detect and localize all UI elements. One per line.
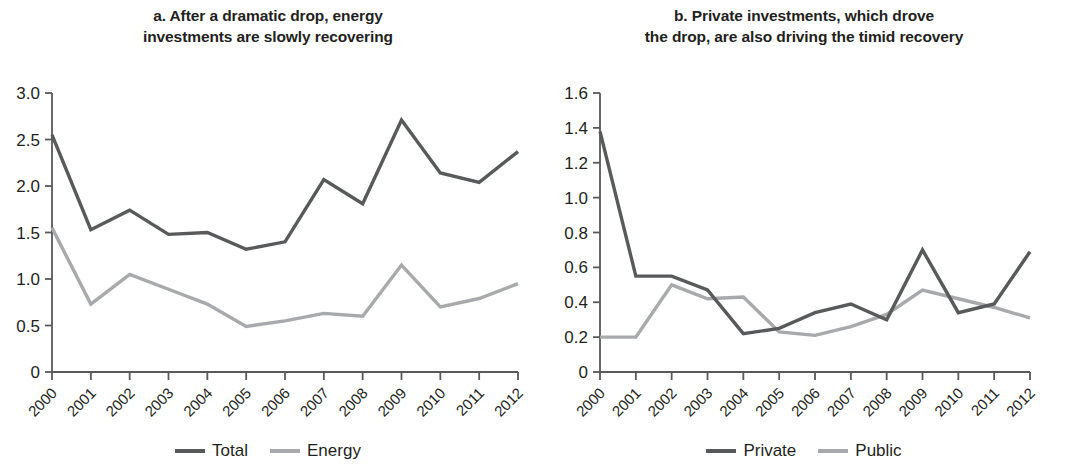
panel-a-plot: 00.51.01.52.02.53.0 20002001200220032004… bbox=[0, 0, 536, 465]
panel-b-axes bbox=[600, 93, 1030, 372]
legend-swatch-private bbox=[706, 449, 736, 453]
legend-label-public: Public bbox=[855, 442, 901, 459]
legend-swatch-public bbox=[818, 449, 848, 453]
legend-label-total: Total bbox=[212, 442, 248, 459]
x-tick-label: 2005 bbox=[219, 384, 255, 420]
x-tick-label: 2003 bbox=[141, 384, 177, 420]
series-line-total bbox=[52, 120, 518, 249]
x-tick-label: 2005 bbox=[752, 384, 788, 420]
x-tick-label: 2000 bbox=[25, 384, 61, 420]
legend-item-energy: Energy bbox=[270, 442, 361, 459]
x-tick-label: 2011 bbox=[452, 384, 487, 419]
y-tick-label: 1.2 bbox=[564, 154, 588, 173]
x-tick-label: 2007 bbox=[823, 384, 859, 420]
y-tick-label: 1.4 bbox=[564, 119, 588, 138]
x-tick-label: 2006 bbox=[258, 384, 294, 420]
y-tick-label: 0.8 bbox=[564, 224, 588, 243]
y-tick-label: 0.5 bbox=[16, 317, 40, 336]
x-tick-label: 2012 bbox=[1003, 384, 1039, 420]
legend-label-energy: Energy bbox=[307, 442, 361, 459]
chart-panel-a: a. After a dramatic drop, energy investm… bbox=[0, 0, 536, 465]
x-tick-label: 2003 bbox=[680, 384, 716, 420]
panel-b-y-ticks: 00.20.40.60.81.01.21.41.6 bbox=[564, 84, 600, 382]
x-tick-label: 2008 bbox=[859, 384, 895, 420]
panel-b-plot: 00.20.40.60.81.01.21.41.6 20002001200220… bbox=[536, 0, 1072, 465]
x-tick-label: 2008 bbox=[335, 384, 371, 420]
y-tick-label: 3.0 bbox=[16, 84, 40, 103]
x-tick-label: 2004 bbox=[180, 384, 216, 420]
x-tick-label: 2001 bbox=[608, 384, 644, 420]
panel-a-axes bbox=[52, 93, 518, 372]
y-tick-label: 1.6 bbox=[564, 84, 588, 103]
y-tick-label: 1.5 bbox=[16, 224, 40, 243]
x-tick-label: 2001 bbox=[63, 384, 99, 420]
y-tick-label: 0.6 bbox=[564, 258, 588, 277]
x-tick-label: 2004 bbox=[716, 384, 752, 420]
x-tick-label: 2010 bbox=[413, 384, 449, 420]
x-tick-label: 2002 bbox=[102, 384, 138, 420]
panel-b-series-lines bbox=[600, 131, 1030, 337]
x-tick-label: 2009 bbox=[895, 384, 931, 420]
x-tick-label: 2010 bbox=[931, 384, 967, 420]
chart-panel-b: b. Private investments, which drove the … bbox=[536, 0, 1072, 465]
panel-a-x-ticks bbox=[52, 372, 518, 380]
panel-a-series-lines bbox=[52, 120, 518, 326]
legend-label-private: Private bbox=[743, 442, 796, 459]
panel-a-x-tick-labels: 2000200120022003200420052006200720082009… bbox=[25, 384, 527, 420]
series-line-private bbox=[600, 131, 1030, 333]
panel-b-x-ticks bbox=[600, 372, 1030, 380]
y-tick-label: 0.4 bbox=[564, 293, 588, 312]
y-tick-label: 2.5 bbox=[16, 131, 40, 150]
y-tick-label: 1.0 bbox=[564, 189, 588, 208]
x-tick-label: 2011 bbox=[967, 384, 1002, 419]
legend-swatch-energy bbox=[270, 449, 300, 453]
y-tick-label: 0 bbox=[31, 363, 40, 382]
two-panel-line-chart-figure: a. After a dramatic drop, energy investm… bbox=[0, 0, 1072, 465]
x-tick-label: 2002 bbox=[644, 384, 680, 420]
panel-b-legend: Private Public bbox=[536, 442, 1072, 459]
panel-b-x-tick-labels: 2000200120022003200420052006200720082009… bbox=[573, 384, 1039, 420]
x-tick-label: 2012 bbox=[491, 384, 527, 420]
panel-a-y-ticks: 00.51.01.52.02.53.0 bbox=[16, 84, 52, 382]
x-tick-label: 2000 bbox=[573, 384, 609, 420]
legend-item-public: Public bbox=[818, 442, 901, 459]
panel-a-legend: Total Energy bbox=[0, 442, 536, 459]
y-tick-label: 1.0 bbox=[16, 270, 40, 289]
x-tick-label: 2006 bbox=[788, 384, 824, 420]
y-tick-label: 0.2 bbox=[564, 328, 588, 347]
legend-item-private: Private bbox=[706, 442, 796, 459]
y-tick-label: 0 bbox=[579, 363, 588, 382]
legend-swatch-total bbox=[175, 449, 205, 453]
x-tick-label: 2009 bbox=[374, 384, 410, 420]
x-tick-label: 2007 bbox=[296, 384, 332, 420]
y-tick-label: 2.0 bbox=[16, 177, 40, 196]
legend-item-total: Total bbox=[175, 442, 248, 459]
